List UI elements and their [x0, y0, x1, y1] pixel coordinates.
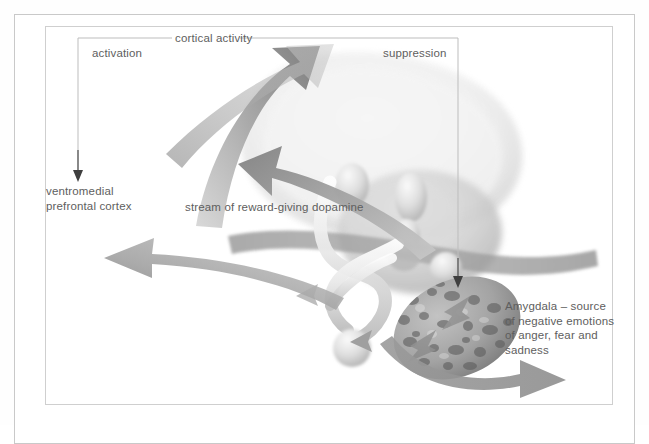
nucleus-mid — [395, 172, 427, 222]
label-cortical-activity: cortical activity — [175, 31, 252, 46]
label-amygdala: Amygdala – source of negative emotions o… — [505, 299, 614, 357]
label-activation: activation — [92, 46, 142, 61]
label-suppression: suppression — [383, 46, 447, 61]
label-ventromedial-prefrontal-cortex: ventromedial prefrontal cortex — [46, 184, 132, 213]
label-dopamine-stream: stream of reward-giving dopamine — [185, 200, 364, 215]
activation-pointer-arrow — [73, 150, 83, 182]
